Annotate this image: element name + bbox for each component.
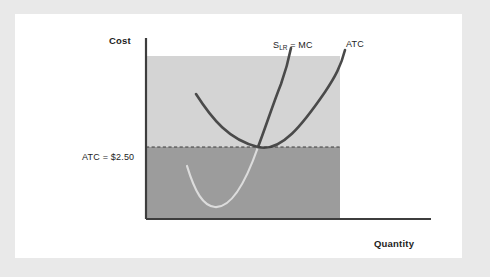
supply-label-suffix: = MC <box>288 40 313 50</box>
upper-shaded-region <box>146 56 340 147</box>
figure-root: Cost Quantity SLR = MC ATC ATC = $2.50 <box>0 0 490 277</box>
supply-marginal-cost-curve-label: SLR = MC <box>273 40 313 50</box>
y-axis-label: Cost <box>109 35 131 46</box>
x-axis-label: Quantity <box>374 238 414 249</box>
atc-minimum-value-label: ATC = $2.50 <box>82 152 134 162</box>
chart-canvas <box>15 14 462 258</box>
figure-card: Cost Quantity SLR = MC ATC ATC = $2.50 <box>15 14 462 258</box>
chart-plot-area: Cost Quantity SLR = MC ATC ATC = $2.50 <box>15 14 462 258</box>
atc-curve-label: ATC <box>346 39 364 49</box>
supply-label-subscript: LR <box>279 44 287 51</box>
